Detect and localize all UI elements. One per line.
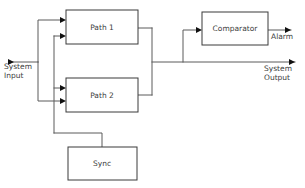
arrow-path1-in-b-icon bbox=[60, 33, 66, 39]
wire-split-bus-a bbox=[38, 20, 62, 62]
wire-split-bus-a-lower bbox=[38, 62, 62, 101]
label-alarm-line-0: Alarm bbox=[271, 32, 293, 41]
block-label-comparator: Comparator bbox=[213, 24, 259, 33]
block-diagram-svg: Path 1Path 2SyncComparator SystemInputAl… bbox=[0, 0, 305, 188]
arrow-comparator-icon bbox=[196, 27, 202, 33]
block-layer: Path 1Path 2SyncComparator bbox=[66, 10, 268, 180]
label-system-output-line-0: System bbox=[264, 64, 292, 73]
block-label-sync: Sync bbox=[93, 159, 111, 168]
label-system-input-line-0: System bbox=[4, 62, 32, 71]
wire-sync-feed bbox=[54, 133, 102, 147]
arrow-path1-in-a-icon bbox=[60, 17, 66, 23]
block-label-path1: Path 1 bbox=[90, 23, 114, 32]
arrow-path2-in-b-icon bbox=[60, 98, 66, 104]
label-system-input-line-1: Input bbox=[4, 71, 23, 80]
wire-comparator-tap bbox=[183, 30, 198, 62]
block-diagram-canvas: Path 1Path 2SyncComparator SystemInputAl… bbox=[0, 0, 305, 188]
label-system-output-line-1: Output bbox=[264, 73, 290, 82]
block-label-path2: Path 2 bbox=[90, 91, 114, 100]
arrow-path2-in-a-icon bbox=[60, 85, 66, 91]
